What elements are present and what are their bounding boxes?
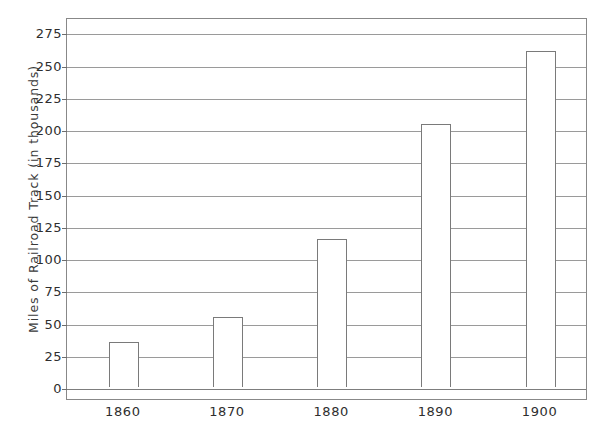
y-axis-tick-label: 25 <box>12 348 62 363</box>
gridline <box>67 99 586 100</box>
y-axis-tick-label: 125 <box>12 219 62 234</box>
y-axis-tick-mark <box>62 67 67 68</box>
gridline <box>67 67 586 68</box>
plot-area <box>66 18 587 400</box>
x-axis-tick-label: 1900 <box>505 404 575 419</box>
x-axis-tick-label: 1870 <box>192 404 262 419</box>
y-axis-tick-mark <box>62 260 67 261</box>
gridline <box>67 34 586 35</box>
y-axis-tick-label: 275 <box>12 26 62 41</box>
y-axis-tick-label: 50 <box>12 316 62 331</box>
y-axis-tick-mark <box>62 325 67 326</box>
gridline <box>67 131 586 132</box>
y-axis-tick-label-group: 2752502252001751501251007550250 <box>12 18 62 388</box>
y-axis-tick-label: 100 <box>12 252 62 267</box>
y-axis-tick-label: 175 <box>12 155 62 170</box>
y-axis-tick-mark <box>62 357 67 358</box>
y-axis-tick-label: 0 <box>12 381 62 396</box>
bar-chart-figure: Miles of Railroad Track (in thousands) 2… <box>0 0 604 438</box>
y-axis-tick-mark <box>62 389 67 390</box>
x-axis-tick-label: 1880 <box>296 404 366 419</box>
gridline <box>67 389 586 390</box>
y-axis-tick-label: 225 <box>12 90 62 105</box>
gridline <box>67 228 586 229</box>
bar <box>213 317 243 387</box>
y-axis-tick-mark <box>62 163 67 164</box>
x-axis-tick-label: 1860 <box>88 404 158 419</box>
y-axis-tick-label: 200 <box>12 123 62 138</box>
y-axis-tick-mark <box>62 34 67 35</box>
gridline <box>67 163 586 164</box>
y-axis-tick-mark <box>62 196 67 197</box>
bar <box>109 342 139 387</box>
x-axis-tick-label-group: 18601870188018901900 <box>66 404 587 428</box>
y-axis-tick-label: 250 <box>12 58 62 73</box>
y-axis-tick-mark <box>62 131 67 132</box>
bar <box>421 124 451 387</box>
y-axis-tick-label: 75 <box>12 284 62 299</box>
y-axis-tick-mark <box>62 292 67 293</box>
y-axis-tick-mark <box>62 99 67 100</box>
bar <box>317 239 347 387</box>
y-axis-tick-label: 150 <box>12 187 62 202</box>
x-axis-tick-label: 1890 <box>400 404 470 419</box>
bar <box>526 51 556 387</box>
gridline <box>67 196 586 197</box>
y-axis-tick-mark <box>62 228 67 229</box>
